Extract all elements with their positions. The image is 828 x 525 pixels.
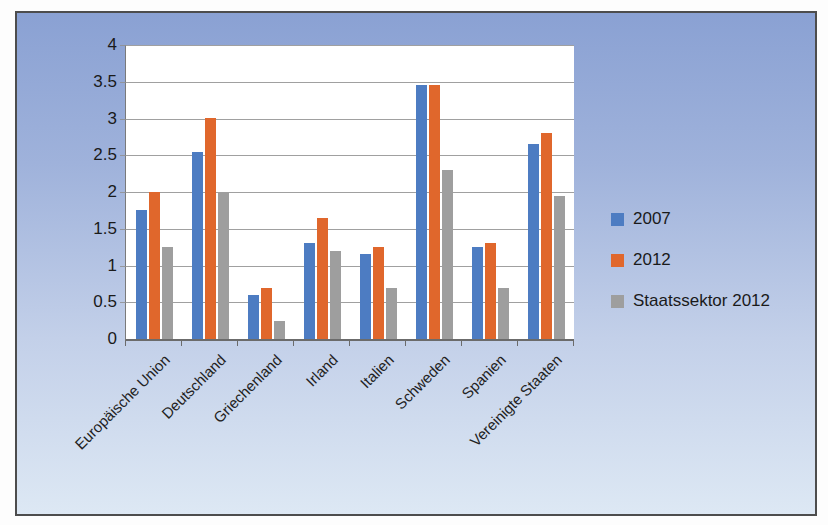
bar-2012 [373,247,384,339]
x-category-label: Irland [302,351,341,390]
x-tick-mark [125,341,126,346]
legend-swatch-icon [611,254,624,267]
y-tick-label: 0.5 [31,291,117,313]
x-tick-mark [181,341,182,346]
bar-staatssektor-2012 [330,251,341,339]
y-tick-label: 3.5 [31,71,117,93]
legend: 20072012Staatssektor 2012 [611,209,770,311]
x-tick-mark [517,341,518,346]
x-tick-mark [349,341,350,346]
bar-2012 [541,133,552,339]
legend-swatch-icon [611,295,624,308]
bar-2007 [360,254,371,339]
legend-swatch-icon [611,213,624,226]
x-category-label: Europäische Union [71,351,173,453]
x-category-label: Italien [357,351,397,391]
y-tick-label: 2.5 [31,144,117,166]
gridline [120,119,574,120]
bar-2007 [304,243,315,339]
legend-label: Staatssektor 2012 [633,291,770,311]
legend-label: 2007 [633,209,671,229]
x-tick-mark [293,341,294,346]
gridline [120,229,574,230]
bar-2012 [205,118,216,339]
x-category-label: Spanien [458,351,509,402]
bar-2012 [261,288,272,339]
bar-2012 [317,218,328,339]
bar-2012 [485,243,496,339]
x-category-label: Schweden [391,351,453,413]
y-tick-label: 1 [31,255,117,277]
bar-2007 [136,210,147,339]
bar-2007 [528,144,539,339]
x-tick-mark [461,341,462,346]
bar-2007 [192,152,203,339]
x-tick-mark [405,341,406,346]
y-tick-label: 3 [31,108,117,130]
bar-staatssektor-2012 [162,247,173,339]
bar-2012 [149,192,160,339]
gridline [120,266,574,267]
y-tick-label: 2 [31,181,117,203]
bar-staatssektor-2012 [498,288,509,339]
bar-2007 [416,85,427,339]
y-tick-label: 1.5 [31,218,117,240]
y-tick-label: 4 [31,34,117,56]
bar-2012 [429,85,440,339]
x-tick-mark [573,341,574,346]
chart-frame: 43.532.521.510.50 Europäische UnionDeuts… [15,11,817,516]
legend-item: Staatssektor 2012 [611,291,770,311]
plot-area [125,45,574,341]
bar-staatssektor-2012 [554,196,565,339]
bar-staatssektor-2012 [386,288,397,339]
legend-label: 2012 [633,250,671,270]
legend-item: 2007 [611,209,770,229]
x-tick-mark [237,341,238,346]
bar-staatssektor-2012 [274,321,285,339]
y-tick-label: 0 [31,328,117,350]
gridline [120,45,574,46]
bar-staatssektor-2012 [442,170,453,339]
gridline [120,155,574,156]
bar-2007 [248,295,259,339]
gridline [120,82,574,83]
gridline [120,192,574,193]
bar-2007 [472,247,483,339]
legend-item: 2012 [611,250,770,270]
bar-staatssektor-2012 [218,192,229,339]
